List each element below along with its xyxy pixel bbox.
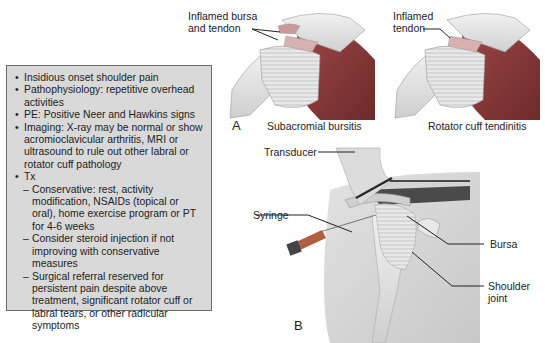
label-line: tendon (393, 22, 433, 34)
illustrations (0, 0, 545, 343)
label-transducer: Transducer (264, 146, 317, 158)
caption-subacromial-bursitis: Subacromial bursitis (267, 120, 362, 132)
panel-letter-a: A (232, 118, 241, 133)
injection-illustration (324, 172, 480, 343)
label-line: Shoulder (488, 280, 530, 292)
label-line: and tendon (188, 22, 257, 34)
label-line: Inflamed bursa (188, 10, 257, 22)
label-bursa: Bursa (490, 238, 517, 250)
label-inflamed-bursa-tendon: Inflamed bursa and tendon (188, 10, 257, 34)
panel-letter-b: B (294, 318, 303, 333)
caption-rotator-cuff-tendinitis: Rotator cuff tendinitis (428, 120, 526, 132)
label-syringe: Syringe (253, 209, 289, 221)
label-shoulder-joint: Shoulder joint (488, 280, 530, 304)
label-inflamed-tendon: Inflamed tendon (393, 10, 433, 34)
label-line: Inflamed (393, 10, 433, 22)
label-line: joint (488, 292, 530, 304)
